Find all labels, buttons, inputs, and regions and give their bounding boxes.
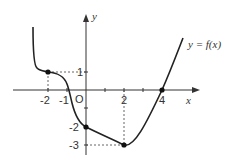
ticks — [48, 72, 162, 145]
y-axis-label: y — [91, 10, 97, 22]
function-label: y = f(x) — [187, 38, 221, 51]
point-2-minus3 — [121, 142, 126, 147]
x-tick-label-4: 4 — [159, 94, 165, 106]
y-tick-label-1: 1 — [77, 66, 83, 78]
function-graph: -2 -1 2 4 1 -2 -3 O y x y = f(x) — [0, 0, 231, 164]
y-tick-label-minus3: -3 — [69, 139, 79, 151]
function-curve — [33, 27, 183, 145]
point-minus2-1 — [45, 69, 50, 74]
y-axis-arrow-icon — [83, 14, 89, 22]
origin-label: O — [75, 93, 84, 105]
x-tick-label-minus2: -2 — [40, 94, 50, 106]
y-tick-label-minus2: -2 — [69, 121, 79, 133]
x-tick-label-minus1: -1 — [59, 94, 69, 106]
x-tick-label-2: 2 — [121, 94, 127, 106]
x-axis-arrow-icon — [192, 87, 200, 93]
point-4-0 — [159, 87, 164, 92]
point-0-minus2 — [83, 124, 88, 129]
x-axis-label: x — [185, 94, 191, 106]
